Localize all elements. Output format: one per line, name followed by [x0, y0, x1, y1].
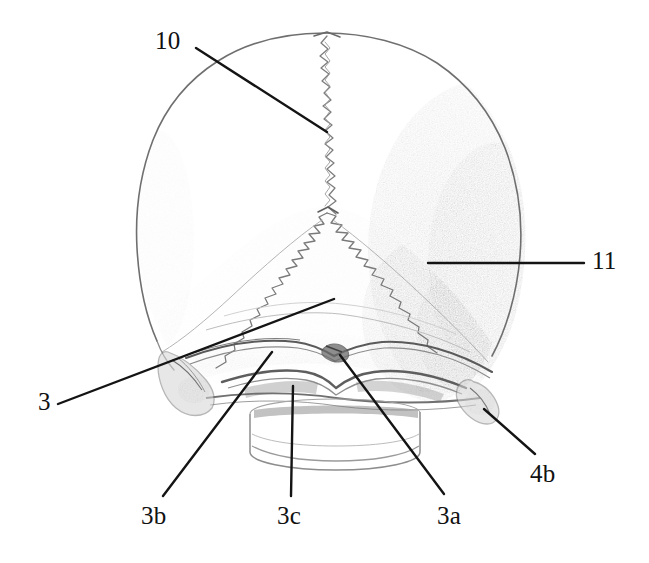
vertebral-stub-shadow	[254, 406, 418, 419]
vertebral-stub	[250, 399, 420, 470]
anatomical-figure: 101133b3c3a4b	[0, 0, 649, 563]
label-3a: 3a	[437, 503, 461, 528]
label-10: 10	[155, 28, 181, 53]
label-11: 11	[592, 248, 617, 273]
leader-line-4b	[484, 409, 535, 454]
label-3: 3	[38, 389, 51, 414]
label-3c: 3c	[277, 503, 301, 528]
label-3b: 3b	[141, 503, 167, 528]
leader-line-10	[196, 48, 327, 132]
sagittal-suture	[314, 32, 340, 214]
label-4b: 4b	[530, 461, 556, 486]
